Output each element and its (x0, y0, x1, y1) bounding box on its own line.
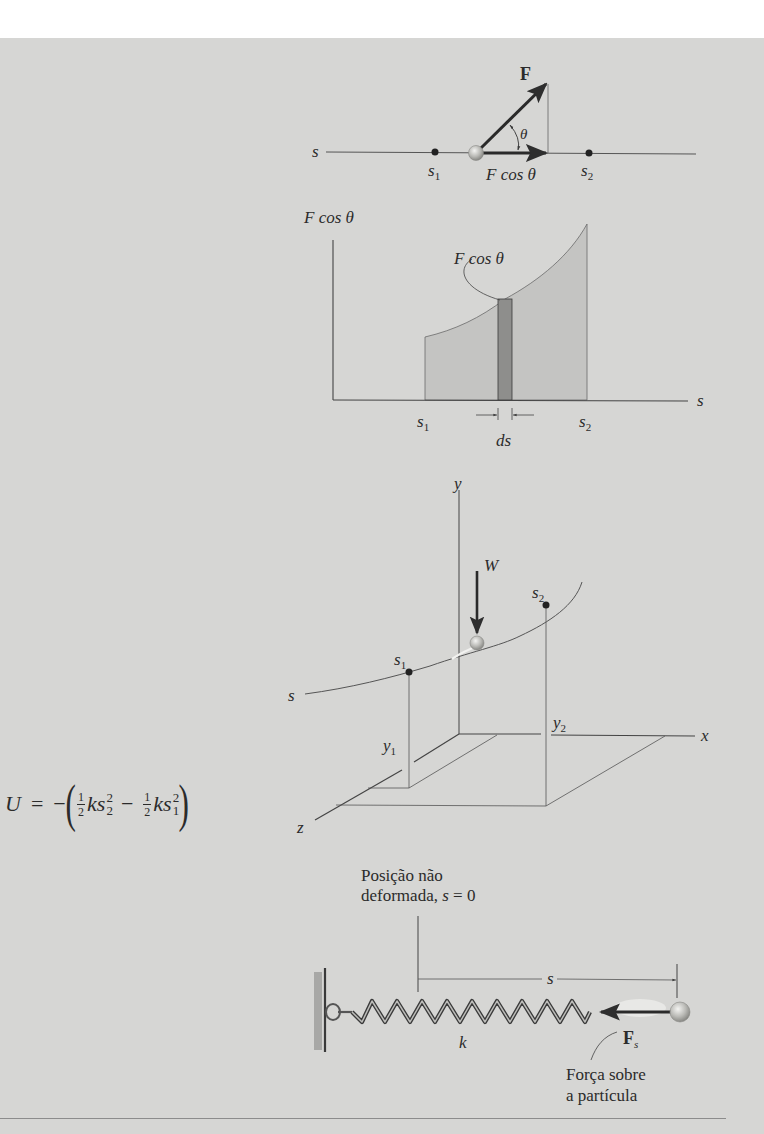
weight-label: W (484, 557, 498, 574)
point-s1-3d-dot (406, 669, 413, 676)
s-axis-label: s (312, 143, 319, 160)
force-caption-line-1: Força sobre (566, 1064, 646, 1085)
s1-label: s1 (428, 162, 440, 182)
formula-exponent-1: 22 (106, 791, 113, 817)
force-highlight (614, 999, 666, 1017)
force-arrow-icon (481, 84, 546, 148)
point-s1-dot (432, 149, 439, 156)
force-caption-line-2: a partícula (566, 1085, 646, 1106)
formula-inner-minus: − (121, 793, 133, 815)
formula-s-1: s (97, 793, 106, 815)
caption-line-2: deformada, s = 0 (361, 886, 475, 906)
angle-arc-icon (510, 125, 519, 150)
y-axis-label-3d: y (454, 475, 462, 492)
differential-strip (498, 299, 512, 400)
curve-label: F cos θ (454, 250, 504, 267)
page-divider (0, 1118, 726, 1119)
chart-x-axis-label: s (697, 392, 704, 409)
x-axis-label-3d: x (701, 727, 709, 744)
particle-ball-spring (670, 1002, 690, 1022)
undeformed-position-caption: Posição não deformada, s = 0 (361, 866, 475, 906)
spring-constant-label: k (459, 1034, 467, 1051)
z-axis-label-3d: z (297, 819, 304, 836)
displacement-label: s (545, 970, 556, 987)
force-caption-leader (591, 1032, 617, 1060)
figure-work-area-chart (333, 224, 688, 420)
wall-shadow (314, 972, 322, 1050)
formula-k-1: k (87, 793, 97, 815)
ds-label: ds (496, 432, 511, 449)
displacement-line-right (557, 979, 676, 980)
formula-close-paren: ) (179, 778, 189, 830)
caption-line-1: Posição não (361, 866, 475, 886)
particle-ball (469, 146, 484, 161)
s2-label: s2 (581, 162, 593, 182)
x-axis-3d-part2 (551, 735, 695, 736)
formula-fraction-1: 12 (77, 791, 85, 818)
figure-force-components (326, 84, 696, 161)
s2-label-3d: s2 (532, 584, 544, 604)
particle-ball-3d (470, 636, 484, 650)
z-axis-3d-part2 (315, 770, 402, 820)
s1-label-3d: s1 (394, 651, 406, 671)
component-label: F cos θ (486, 166, 536, 183)
path-label-3d: s (288, 687, 295, 704)
formula-s-2: s (163, 793, 172, 815)
formula-k-2: k (153, 793, 163, 815)
formula-fraction-2: 12 (143, 791, 151, 818)
chart-y-axis-label: F cos θ (304, 209, 354, 226)
diagram-canvas (0, 0, 764, 1134)
spring-potential-formula: U = − ( 12 ks 22 − 12 ks 21 ) (5, 778, 188, 830)
chart-tick-s1: s1 (417, 413, 429, 433)
formula-open-paren: ( (65, 778, 75, 830)
spring-coil-icon (326, 1001, 590, 1022)
formula-lhs: U (5, 793, 21, 815)
point-s2-dot (586, 150, 593, 157)
force-label: F (520, 65, 531, 83)
figure-weight-3d (305, 490, 695, 820)
z-axis-3d-part1 (414, 734, 459, 762)
y1-label: y1 (383, 737, 396, 757)
chart-tick-s2: s2 (579, 413, 591, 433)
formula-equals: = (31, 793, 43, 815)
y2-label: y2 (553, 714, 566, 734)
spring-force-label: Fs (623, 1029, 638, 1050)
x-axis-line (333, 400, 688, 401)
force-caption: Força sobre a partícula (566, 1064, 646, 1106)
formula-minus: − (53, 793, 65, 815)
angle-label: θ (520, 127, 527, 142)
